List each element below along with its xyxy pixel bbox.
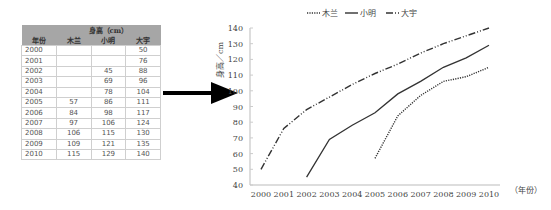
x-tick-label: 2008 — [433, 190, 453, 199]
x-axis-ticks: 2000200120022003200420052006200720082009… — [251, 190, 499, 199]
y-tick-label: 70 — [233, 134, 243, 143]
y-tick-label: 120 — [228, 55, 243, 64]
y-tick-label: 40 — [233, 181, 243, 190]
x-tick-label: 2004 — [342, 190, 362, 199]
series-line — [375, 67, 489, 158]
series-line — [307, 45, 489, 177]
legend-label: 大宇 — [401, 8, 417, 18]
x-tick-label: 2000 — [251, 190, 271, 199]
x-tick-label: 2001 — [274, 190, 294, 199]
y-tick-label: 50 — [233, 165, 243, 174]
x-tick-label: 2010 — [479, 190, 499, 199]
x-tick-label: 2007 — [410, 190, 430, 199]
x-tick-label: 2006 — [388, 190, 408, 199]
x-tick-label: 2005 — [365, 190, 385, 199]
y-tick-label: 60 — [233, 150, 243, 159]
legend-label: 木兰 — [322, 8, 338, 18]
x-tick-label: 2003 — [319, 190, 339, 199]
y-tick-label: 100 — [228, 87, 243, 96]
series-line — [261, 28, 489, 169]
x-axis-label: （年份） — [510, 185, 542, 195]
x-tick-label: 2002 — [296, 190, 316, 199]
chart-series — [261, 28, 489, 177]
y-tick-label: 130 — [228, 40, 243, 49]
y-tick-label: 110 — [228, 71, 243, 80]
legend-label: 小明 — [360, 9, 376, 18]
y-tick-label: 90 — [233, 103, 243, 112]
y-tick-label: 140 — [228, 24, 243, 33]
chart-legend: 木兰小明大宇 — [307, 8, 417, 18]
y-axis-label: 身高／cm — [215, 42, 225, 78]
line-chart: 木兰小明大宇 身高／cm 405060708090100110120130140… — [0, 0, 551, 210]
x-tick-label: 2009 — [456, 190, 476, 199]
y-axis-ticks: 405060708090100110120130140 — [228, 24, 253, 190]
y-tick-label: 80 — [233, 118, 243, 127]
